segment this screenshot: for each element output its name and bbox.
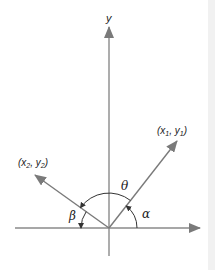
theta-arc	[81, 193, 131, 208]
alpha-label: α	[142, 207, 150, 221]
alpha-arc	[126, 206, 137, 228]
vector-angle-diagram: y (x1, y1) (x2, y2) θ α β	[0, 0, 215, 270]
beta-label: β	[68, 209, 76, 223]
vector-1-label: (x1, y1)	[157, 125, 187, 137]
y-axis-label: y	[105, 12, 113, 24]
theta-label: θ	[121, 179, 129, 193]
beta-arc	[81, 212, 86, 228]
vector-2-label: (x2, y2)	[18, 157, 48, 169]
diagram-canvas: y (x1, y1) (x2, y2) θ α β	[0, 0, 215, 270]
